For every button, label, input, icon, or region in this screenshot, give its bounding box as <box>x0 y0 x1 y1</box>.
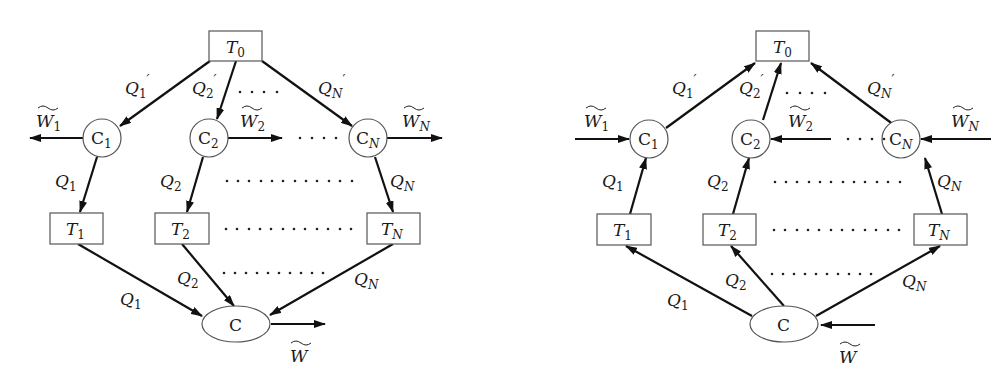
engine-c-label: C <box>777 315 790 335</box>
label-qn-prime: QN′ <box>867 72 894 101</box>
right-panel: T0 C1 C2 CN T1 T2 TN C Q1′ Q2′ QN′ W1 W2… <box>575 31 991 367</box>
label-q2: Q2 <box>160 171 182 194</box>
label-bottom-q2: Q2 <box>725 270 747 293</box>
svg-text:W: W <box>290 346 309 366</box>
dots-row-bottom <box>771 273 873 276</box>
tilde-icon <box>242 106 262 110</box>
label-q2-prime: Q2′ <box>739 72 764 101</box>
dots-row-t <box>225 228 353 231</box>
label-qn: QN <box>937 171 962 194</box>
label-bottom-qn: QN <box>902 271 927 294</box>
tilde-icon <box>790 106 810 110</box>
label-w2: W2 <box>240 106 265 134</box>
tilde-icon <box>953 106 973 110</box>
edge-c1-t1 <box>80 157 97 212</box>
edge-c-t2 <box>731 246 784 306</box>
tilde-icon <box>404 106 424 110</box>
label-bottom-q2: Q2 <box>177 268 199 291</box>
label-w1: W1 <box>36 106 61 134</box>
label-w2: W2 <box>788 106 813 134</box>
label-w1: W1 <box>584 106 609 134</box>
tilde-icon <box>840 342 860 346</box>
label-q2-prime: Q2′ <box>192 72 217 101</box>
left-edges <box>30 61 442 324</box>
label-bottom-qn: QN <box>354 269 379 292</box>
dots-row-mid <box>226 180 354 183</box>
edge-t2-c2 <box>733 158 749 214</box>
label-q1: Q1 <box>602 171 624 194</box>
engine-c-label: C <box>229 315 242 335</box>
dots-row-t <box>773 229 901 232</box>
label-w-total: W <box>839 342 860 367</box>
svg-text:WN: WN <box>402 111 430 134</box>
label-wn: WN <box>402 106 430 134</box>
label-bottom-q1: Q1 <box>120 289 142 312</box>
svg-text:W1: W1 <box>584 111 609 134</box>
dots-row-mid <box>774 181 902 184</box>
svg-text:W: W <box>839 347 858 367</box>
dots-row-bottom <box>223 272 325 275</box>
label-q1-prime: Q1′ <box>125 72 150 101</box>
edge-c2-t0 <box>763 63 781 120</box>
label-q1: Q1 <box>55 171 77 194</box>
label-qn-prime: QN′ <box>318 72 345 101</box>
label-wn: WN <box>951 106 979 134</box>
edge-t1-c1 <box>630 158 646 214</box>
svg-text:WN: WN <box>951 111 979 134</box>
edge-t0-c2 <box>217 61 236 119</box>
svg-text:W1: W1 <box>36 111 61 134</box>
svg-text:W2: W2 <box>788 111 813 134</box>
label-w-total: W <box>290 341 311 366</box>
left-panel: T0 C1 C2 CN T1 T2 TN C Q1′ Q2′ QN′ W1 W2… <box>30 31 442 366</box>
tilde-icon <box>291 341 311 345</box>
diagram-canvas: T0 C1 C2 CN T1 T2 TN C Q1′ Q2′ QN′ W1 W2… <box>0 0 1008 375</box>
tilde-icon <box>586 106 606 110</box>
label-bottom-q1: Q1 <box>667 290 689 313</box>
label-qn: QN <box>390 171 415 194</box>
label-q1-prime: Q1′ <box>672 72 697 101</box>
edge-c2-t2 <box>187 157 203 212</box>
right-edges <box>575 63 991 325</box>
label-q2: Q2 <box>707 171 729 194</box>
tilde-icon <box>38 106 58 110</box>
svg-text:W2: W2 <box>240 111 265 134</box>
